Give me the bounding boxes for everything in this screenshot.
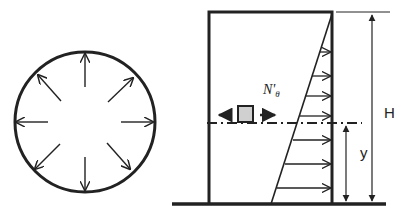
- hoop-force-label: N'θ: [262, 82, 280, 99]
- radial-pressure-arrows: [16, 54, 153, 190]
- hydrostatic-pressure-arrows: [277, 52, 330, 188]
- arrow-down-left-icon: [35, 144, 60, 169]
- arrow-up-left-icon: [38, 75, 61, 101]
- diagram-canvas: N'θ H y: [0, 0, 411, 218]
- pressure-triangle-edge: [271, 14, 332, 204]
- tank-elevation-view: N'θ H y: [172, 12, 395, 204]
- arrow-up-right-icon: [108, 78, 133, 102]
- height-label: H: [384, 104, 395, 121]
- tank-plan-view: [15, 52, 155, 192]
- depth-label: y: [360, 144, 368, 161]
- wall-element: [238, 106, 253, 122]
- tank-wall: [209, 12, 332, 204]
- arrow-down-right-icon: [107, 143, 130, 169]
